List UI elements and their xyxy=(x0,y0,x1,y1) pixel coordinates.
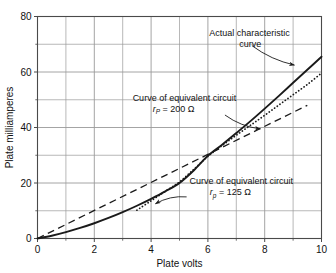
plate-characteristic-chart: 0246810020406080 Actual characteristiccu… xyxy=(0,0,336,273)
annotation-text: Curve of equivalent circuit xyxy=(189,176,293,186)
chart-figure: 0246810020406080 Actual characteristiccu… xyxy=(0,0,336,273)
y-axis-title: Plate milliamperes xyxy=(4,87,15,169)
x-tick-label: 4 xyxy=(148,244,154,255)
y-tick-label: 60 xyxy=(20,67,32,78)
x-tick-label: 0 xyxy=(35,244,41,255)
annotation-text: curve xyxy=(239,39,261,49)
y-tick-label: 20 xyxy=(20,178,32,189)
x-tick-label: 2 xyxy=(92,244,98,255)
annotation-text: Curve of equivalent circuit xyxy=(133,93,237,103)
x-tick-label: 10 xyxy=(316,244,328,255)
x-axis-title: Plate volts xyxy=(156,258,202,269)
x-tick-label: 8 xyxy=(262,244,268,255)
y-tick-label: 80 xyxy=(20,11,32,22)
x-tick-label: 6 xyxy=(205,244,211,255)
y-tick-label: 0 xyxy=(26,233,32,244)
y-tick-label: 40 xyxy=(20,122,32,133)
annotation-text: Actual characteristic xyxy=(209,28,290,38)
